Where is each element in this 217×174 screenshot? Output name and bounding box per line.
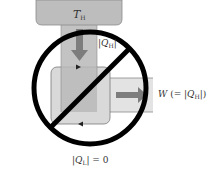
hot-reservoir-label: TH xyxy=(73,9,86,21)
work-out-label: W (= |QH|) xyxy=(158,90,206,100)
heat-in-label: |QH| xyxy=(98,39,117,49)
heat-engine-diagram: TH |QH| W (= |QH|) |QL| = 0 xyxy=(0,0,217,174)
diagram-graphic xyxy=(0,0,217,174)
heat-out-label: |QL| = 0 xyxy=(72,156,108,166)
